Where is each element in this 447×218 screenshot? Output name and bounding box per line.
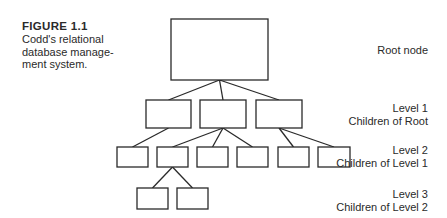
edge-l1b-l2d: [223, 128, 253, 147]
level-2-subtitle: Children of Level 1: [336, 157, 428, 170]
tree-node-l2c: [197, 147, 228, 167]
label-level-2: Level 2 Children of Level 1: [336, 144, 428, 169]
tree-node-l2e: [278, 147, 309, 167]
root-node-title: Root node: [377, 44, 428, 57]
level-1-subtitle: Children of Root: [349, 115, 429, 128]
level-3-subtitle: Children of Level 2: [336, 201, 428, 214]
level-3-title: Level 3: [336, 188, 428, 201]
edge-root-l1b: [220, 80, 224, 100]
tree-node-l3b: [177, 188, 208, 209]
edge-root-l1c: [220, 80, 280, 100]
level-2-title: Level 2: [336, 144, 428, 157]
tree-node-l3a: [137, 188, 168, 209]
tree-node-l1c: [256, 100, 302, 128]
tree-node-l1b: [200, 100, 246, 128]
edge-root-l1a: [169, 80, 220, 100]
tree-edges: [133, 80, 335, 188]
tree-node-root: [171, 19, 268, 80]
edge-l1b-l2b: [173, 128, 224, 147]
tree-node-l2d: [237, 147, 268, 167]
edge-l2b-l3a: [153, 167, 173, 188]
tree-node-l2b: [157, 147, 188, 167]
level-1-title: Level 1: [349, 102, 429, 115]
edge-l1c-l2f: [279, 128, 334, 147]
label-level-3: Level 3 Children of Level 2: [336, 188, 428, 213]
tree-node-l1a: [146, 100, 191, 128]
edge-l2b-l3b: [173, 167, 193, 188]
edge-l1a-l2a: [133, 128, 169, 147]
label-root-node: Root node: [377, 44, 428, 57]
tree-nodes: [117, 19, 350, 209]
tree-node-l2a: [117, 147, 148, 167]
label-level-1: Level 1 Children of Root: [349, 102, 429, 127]
